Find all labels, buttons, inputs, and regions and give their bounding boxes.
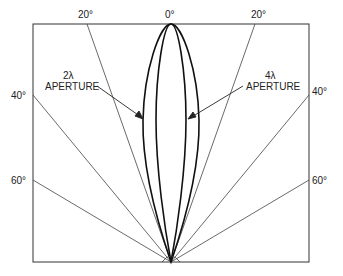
radial-left-40 (33, 95, 171, 262)
label-60-left: 60° (11, 175, 26, 186)
radial-left-20 (87, 24, 171, 262)
label-60-right: 60° (312, 175, 327, 186)
label-2-lambda: 2λ (63, 70, 74, 81)
radial-right-40 (171, 95, 309, 262)
radial-right-60 (171, 180, 309, 262)
label-2-lambda-aperture: APERTURE (45, 81, 100, 92)
radial-right-20 (171, 24, 255, 262)
label-0: 0° (165, 9, 175, 20)
label-4-lambda-aperture: APERTURE (246, 81, 301, 92)
radial-left-60 (33, 180, 171, 262)
label-4-lambda: 4λ (265, 70, 276, 81)
label-40-left: 40° (11, 90, 26, 101)
label-20-left: 20° (78, 9, 93, 20)
arrowhead-4-lambda (188, 112, 196, 119)
label-40-right: 40° (312, 86, 327, 97)
angle-radials (33, 24, 309, 262)
plot-frame (33, 24, 309, 262)
arrow-2-lambda (97, 86, 141, 117)
radiation-pattern-diagram: 20° 0° 20° 40° 40° 60° 60° 2λ APERTURE 4… (0, 0, 343, 276)
lobe-2-lambda (143, 24, 199, 262)
arrowhead-2-lambda (135, 111, 143, 119)
label-20-right: 20° (251, 9, 266, 20)
